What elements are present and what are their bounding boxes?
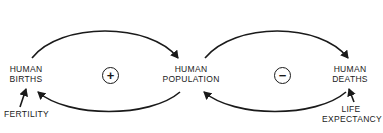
link-population-to-births: [38, 92, 180, 112]
link-fertility-to-births: [20, 89, 26, 107]
node-life-expectancy: LIFE EXPECTANCY: [322, 104, 380, 124]
node-human-births: HUMAN BIRTHS: [4, 64, 48, 84]
link-births-to-population: [32, 31, 178, 58]
link-population-to-deaths: [205, 31, 348, 58]
node-fertility: FERTILITY: [4, 109, 56, 119]
node-human-population: HUMAN POPULATION: [155, 64, 227, 84]
causal-loop-diagram: HUMAN BIRTHS HUMAN POPULATION HUMAN DEAT…: [0, 0, 383, 133]
balancing-loop-minus-icon: −: [274, 67, 291, 84]
reinforcing-loop-plus-icon: +: [102, 67, 119, 84]
node-human-deaths: HUMAN DEATHS: [326, 64, 374, 84]
link-life-to-deaths: [349, 89, 354, 102]
